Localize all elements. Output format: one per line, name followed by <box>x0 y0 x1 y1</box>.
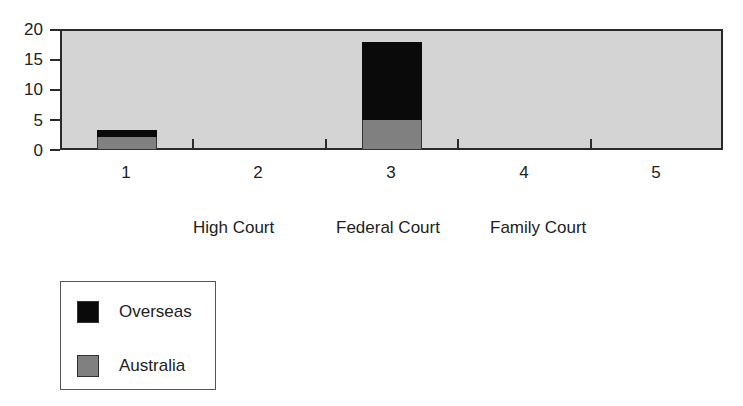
bar-australia-1 <box>97 137 157 150</box>
bar-overseas-3 <box>362 42 422 120</box>
legend-label-overseas: Overseas <box>119 302 192 322</box>
x-tick-mark <box>590 139 592 149</box>
x-tick-label-4: 4 <box>504 163 544 183</box>
legend-label-australia: Australia <box>119 356 185 376</box>
y-tick-label-20: 20 <box>3 21 43 38</box>
bar-australia-3 <box>362 120 422 150</box>
x-tick-label-3: 3 <box>371 163 411 183</box>
x-tick-mark <box>192 139 194 149</box>
y-tick-label-5: 5 <box>3 112 43 129</box>
y-tick-label-15: 15 <box>3 51 43 68</box>
y-tick-label-10: 10 <box>3 81 43 98</box>
y-tick-mark <box>50 89 60 91</box>
x-tick-mark <box>457 139 459 149</box>
legend: Overseas Australia <box>60 281 216 390</box>
x-tick-label-2: 2 <box>238 163 278 183</box>
y-tick-mark <box>50 149 60 151</box>
legend-item-overseas: Overseas <box>77 301 192 323</box>
x-tick-mark <box>325 139 327 149</box>
legend-item-australia: Australia <box>77 355 185 377</box>
court-label-high: High Court <box>193 218 274 238</box>
x-tick-label-5: 5 <box>636 163 676 183</box>
legend-swatch-australia <box>77 355 99 377</box>
court-label-family: Family Court <box>490 218 586 238</box>
y-tick-label-0: 0 <box>3 142 43 159</box>
court-label-federal: Federal Court <box>336 218 440 238</box>
bar-overseas-1 <box>97 130 157 137</box>
y-tick-mark <box>50 119 60 121</box>
y-tick-mark <box>50 59 60 61</box>
y-tick-mark <box>50 29 60 31</box>
x-tick-label-1: 1 <box>106 163 146 183</box>
legend-swatch-overseas <box>77 301 99 323</box>
